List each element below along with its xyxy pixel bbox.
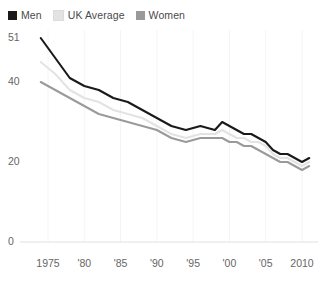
y-tick-label: 51 <box>8 32 20 43</box>
plot-svg <box>0 0 321 281</box>
series-line-uk-average <box>41 62 310 166</box>
y-tick-label: 0 <box>8 236 14 247</box>
x-tick-label: '90 <box>150 258 164 269</box>
chart-container: Men UK Average Women 5140200 1975'80'85'… <box>0 0 321 281</box>
x-tick-label: '05 <box>259 258 273 269</box>
x-tick-label: '95 <box>186 258 200 269</box>
x-tick-label: 1975 <box>36 258 59 269</box>
plot-area <box>0 0 321 281</box>
y-tick-label: 40 <box>8 76 20 87</box>
x-tick-label: '00 <box>223 258 237 269</box>
series-lines <box>41 38 310 170</box>
x-tick-label: '80 <box>77 258 91 269</box>
x-tick-label: '85 <box>114 258 128 269</box>
series-line-men <box>41 38 310 162</box>
y-tick-label: 20 <box>8 156 20 167</box>
x-tick-label: 2010 <box>290 258 313 269</box>
